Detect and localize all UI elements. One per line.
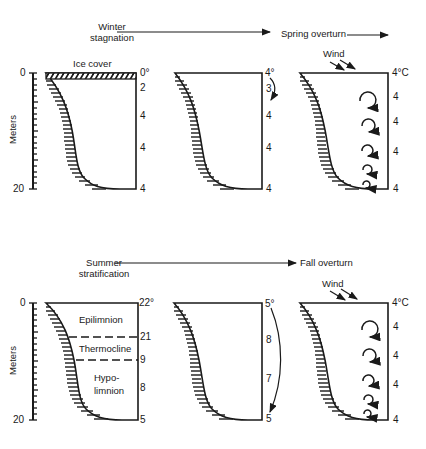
temp-label: 8 <box>266 335 272 345</box>
hypolimnion-label-line2: limnion <box>94 385 124 396</box>
lake-spring-overturn <box>300 60 388 189</box>
depth-bottom-label: 20 <box>13 415 24 425</box>
stage-winter-label: Winter stagnation <box>72 21 152 43</box>
thermocline-label: Thermocline <box>79 343 131 354</box>
lake-diagram-graphics <box>0 0 426 449</box>
temp-label: 22° <box>139 298 154 308</box>
sinking-water-arrow-fall <box>270 308 281 412</box>
temp-label: 4 <box>393 147 399 157</box>
temp-label: 5 <box>140 415 146 425</box>
epilimnion-label: Epilimnion <box>79 314 123 325</box>
temp-label: 21 <box>140 332 151 342</box>
depth-axis-bottom <box>29 303 38 420</box>
lake-fall-overturn <box>300 289 388 420</box>
stage-winter-line1: Winter <box>72 21 152 32</box>
depth-axis-top <box>29 73 38 189</box>
temp-label: 4 <box>266 184 272 194</box>
temp-label: 5° <box>265 299 275 309</box>
lake-spring-transition <box>175 73 275 189</box>
temp-label: 4°C <box>392 68 409 78</box>
temp-label: 4°C <box>392 298 409 308</box>
ice-cover-label: Ice cover <box>73 58 112 69</box>
ice-cover-layer <box>46 73 136 79</box>
wind-arrows-spring <box>330 60 355 70</box>
temp-label: 4 <box>393 117 399 127</box>
wind-label-spring: Wind <box>323 48 345 59</box>
lake-fall-transition <box>174 303 281 420</box>
depth-axis-label: Meters <box>7 115 18 144</box>
temp-label: 0° <box>140 68 150 78</box>
temp-label: 5 <box>266 414 272 424</box>
temp-label: 4 <box>140 111 146 121</box>
stage-winter-line2: stagnation <box>72 32 152 43</box>
temp-label: 2 <box>140 83 146 93</box>
temp-label: 4 <box>393 415 399 425</box>
stage-summer-label: Summer stratification <box>66 257 142 279</box>
depth-top-label: 0 <box>20 298 26 308</box>
lake-winter-stagnation <box>46 73 136 189</box>
stage-summer-line1: Summer <box>66 257 142 268</box>
temp-label: 4 <box>393 92 399 102</box>
stage-fall-overturn-label: Fall overturn <box>300 257 353 268</box>
temp-label: 9 <box>140 355 146 365</box>
temp-label: 4 <box>140 184 146 194</box>
stage-spring-overturn-label: Spring overturn <box>281 28 346 39</box>
temp-label: 3 <box>266 84 272 94</box>
temp-label: 4 <box>393 351 399 361</box>
temp-label: 4 <box>393 322 399 332</box>
depth-top-label: 0 <box>20 68 26 78</box>
wind-label-fall: Wind <box>322 278 344 289</box>
depth-axis-label: Meters <box>7 346 18 375</box>
temp-label: 7 <box>266 374 272 384</box>
temp-label: 4 <box>266 111 272 121</box>
stage-summer-line2: stratification <box>66 268 142 279</box>
temp-label: 8 <box>140 383 146 393</box>
hypolimnion-label-line1: Hypo- <box>94 372 119 383</box>
depth-bottom-label: 20 <box>13 184 24 194</box>
wind-arrows-fall <box>330 289 357 300</box>
temp-label: 4° <box>265 68 275 78</box>
temp-label: 4 <box>393 184 399 194</box>
temp-label: 4 <box>393 380 399 390</box>
temp-label: 4 <box>140 143 146 153</box>
temp-label: 4 <box>266 143 272 153</box>
